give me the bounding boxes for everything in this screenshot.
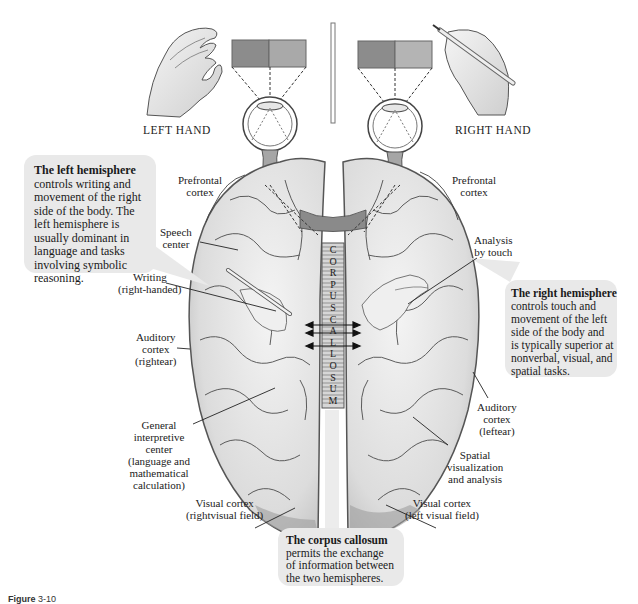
corpus-letter: R: [326, 267, 340, 279]
corpus-letter: S: [326, 372, 340, 384]
corpus-letter: C: [326, 314, 340, 326]
left-hemisphere-callout: The left hemisphere controls writing and…: [24, 155, 156, 273]
label-spatial-visualization: Spatialvisualizationand analysis: [447, 449, 503, 485]
right-callout-pointer: [470, 258, 520, 282]
figure-caption: Figure 3-10: [8, 594, 56, 604]
corpus-callosum-callout: The corpus callosum permits the exchange…: [278, 528, 404, 586]
left-hand-illustration: [147, 28, 222, 117]
right-hand-label: RIGHT HAND: [455, 124, 531, 136]
corpus-letter: L: [326, 348, 340, 360]
label-analysis-by-touch: Analysisby touch: [474, 234, 513, 258]
label-speech-center: Speechcenter: [160, 226, 192, 250]
corpus-letter: P: [326, 279, 340, 291]
corpus-letter: M: [326, 395, 340, 407]
left-hand-label: LEFT HAND: [143, 124, 211, 136]
corpus-callosum-callout-stem: [325, 410, 339, 530]
corpus-callosum-vertical-label: C O R P U S C A L L O S U M: [326, 244, 340, 406]
label-left-visual-cortex: Visual cortex(rightvisual field): [186, 497, 263, 521]
label-left-auditory-cortex: Auditorycortex(rightear): [135, 331, 177, 367]
corpus-letter: L: [326, 337, 340, 349]
corpus-letter: U: [326, 290, 340, 302]
center-divider: [331, 23, 335, 123]
corpus-letter: C: [326, 244, 340, 256]
label-right-prefrontal-cortex: Prefrontalcortex: [452, 174, 496, 198]
corpus-letter: A: [326, 325, 340, 337]
label-right-auditory-cortex: Auditorycortex(leftear): [477, 401, 517, 437]
figure-caption-number: 3-10: [38, 594, 56, 604]
label-left-prefrontal-cortex: Prefrontalcortex: [178, 174, 222, 198]
label-general-interpretive-center: Generalinterpretivecenter(language andma…: [128, 419, 190, 491]
right-hand-illustration: [433, 25, 513, 115]
corpus-letter: U: [326, 383, 340, 395]
right-hemisphere-callout: The right hemisphere controls touch and …: [505, 280, 617, 377]
figure-caption-prefix: Figure: [8, 594, 36, 604]
label-right-visual-cortex: Visual cortex(left visual field): [405, 497, 479, 521]
corpus-letter: O: [326, 256, 340, 268]
corpus-letter: S: [326, 302, 340, 314]
corpus-letter: O: [326, 360, 340, 372]
